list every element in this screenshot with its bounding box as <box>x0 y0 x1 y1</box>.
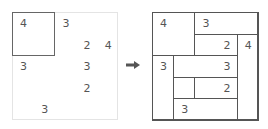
region-number: 4 <box>245 40 252 51</box>
clue-number: 3 <box>84 61 91 72</box>
solution-region <box>194 34 237 57</box>
region-number: 3 <box>181 104 188 115</box>
clue-number: 3 <box>41 104 48 115</box>
solution-region <box>194 77 237 100</box>
region-number: 2 <box>224 40 231 51</box>
clue-number: 4 <box>105 40 112 51</box>
region-number: 3 <box>202 18 209 29</box>
clue-number: 3 <box>20 61 27 72</box>
region-number: 2 <box>224 83 231 94</box>
solution-grid: 43243323 <box>152 12 258 120</box>
region-number: 3 <box>160 61 167 72</box>
region-number: 3 <box>224 61 231 72</box>
region-number: 4 <box>160 18 167 29</box>
arrow-right-icon <box>126 61 140 69</box>
solution-region <box>173 77 195 100</box>
clue-number: 2 <box>84 83 91 94</box>
clue-number: 3 <box>62 18 69 29</box>
clue-number: 4 <box>20 18 27 29</box>
clue-number: 2 <box>84 40 91 51</box>
highlighted-region <box>12 12 55 56</box>
solution-region <box>152 12 195 56</box>
puzzle-grid: 43243323 <box>12 12 118 120</box>
